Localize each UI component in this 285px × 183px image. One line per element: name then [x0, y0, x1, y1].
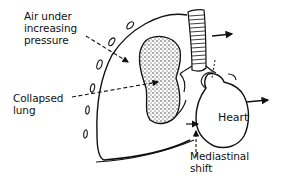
label-mediastinal-shift: Mediastinal shift: [190, 150, 249, 174]
label-collapsed-lung: Collapsed lung: [13, 92, 63, 116]
rib-fragments: [84, 22, 134, 138]
heart-top-vessel: [228, 74, 236, 80]
label-air-under-pressure: Air under increasing pressure: [24, 10, 77, 46]
label-heart: Heart: [218, 112, 248, 124]
lung-leader-line: [72, 82, 158, 97]
trachea-shift-arrow: [212, 34, 232, 36]
heart-shift-arrow: [246, 100, 268, 102]
air-leader-line: [86, 36, 128, 62]
trachea: [180, 10, 216, 74]
collapsed-lung-shape: [139, 37, 180, 124]
